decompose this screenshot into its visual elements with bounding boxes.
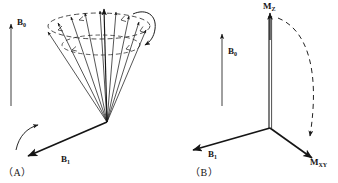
panel-b-b1-axis [193, 128, 270, 150]
figure-canvas [0, 0, 338, 183]
panel-a-b1-arrow [28, 122, 107, 156]
panel-a-b0-label: B0 [17, 18, 26, 27]
panel-b-mxy-label: MXY [310, 158, 327, 167]
panel-b-mz-label: MZ [263, 2, 276, 11]
panel-b-mxy-axis [270, 128, 312, 158]
panel-a-caption: （A） [3, 164, 32, 179]
nmr-vector-figure: B0 B1 （A） B0 B1 MZ MXY （B） [0, 0, 338, 183]
panel-a-group [11, 9, 155, 156]
panel-b-caption: （B） [190, 164, 218, 179]
panel-a-cone-inner-ellipse [62, 35, 140, 55]
panel-a-b1-rotation-arrow [16, 125, 38, 150]
panel-a-cone-spokes [48, 11, 146, 122]
panel-a-resultant-vector [104, 9, 107, 122]
panel-b-b0-label: B0 [228, 47, 237, 56]
panel-b-b1-label: B1 [208, 150, 217, 159]
panel-a-b1-label: B1 [61, 155, 70, 164]
panel-b-tipping-arc [278, 18, 313, 136]
panel-b-group [193, 13, 313, 158]
